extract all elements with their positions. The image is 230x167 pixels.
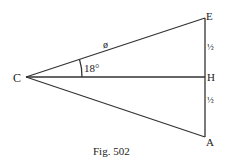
half-label-ha: ½: [207, 95, 214, 105]
point-label-a: A: [206, 136, 214, 148]
diagram-canvas: C E H A ø 18° ½ ½ Fig. 502: [0, 0, 230, 167]
segment-ce: [26, 18, 205, 77]
angle-label: 18°: [84, 62, 99, 74]
figure-caption: Fig. 502: [93, 145, 130, 157]
half-label-eh: ½: [207, 42, 214, 52]
segment-ca: [26, 77, 205, 137]
point-label-c: C: [13, 71, 21, 85]
side-label-ce: ø: [103, 39, 108, 50]
angle-arc: [80, 59, 83, 77]
point-label-e: E: [206, 10, 213, 22]
point-label-h: H: [207, 71, 215, 83]
